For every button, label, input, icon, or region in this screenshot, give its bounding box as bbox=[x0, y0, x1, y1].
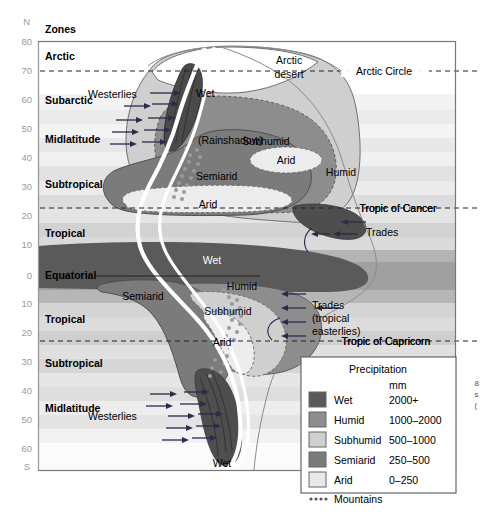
lat-tick-30: 30 bbox=[21, 181, 32, 192]
map-label-arid-south: Arid bbox=[213, 336, 232, 348]
map-label-arid-rainshadow: Arid bbox=[277, 154, 296, 166]
legend-label-subhumid: Subhumid bbox=[334, 434, 381, 446]
map-label-wet-north: Wet bbox=[196, 87, 215, 99]
map-label-rainshadow: (Rainshadow) bbox=[198, 134, 263, 146]
legend-swatch-subhumid bbox=[309, 432, 326, 447]
legend-range-humid: 1000–2000 bbox=[389, 414, 442, 426]
label-tropic-of-cancer-fg: Tropic of Cancer bbox=[359, 202, 437, 214]
axis-hemisphere-south: S bbox=[24, 461, 30, 472]
legend-swatch-humid bbox=[309, 412, 326, 427]
legend-range-subhumid: 500–1000 bbox=[389, 434, 436, 446]
legend-units: mm bbox=[389, 379, 407, 391]
lat-tick-50: 50 bbox=[21, 123, 32, 134]
wind-label-tropical-easterlies-l2: easterlies) bbox=[312, 325, 360, 337]
zone-label-arctic-n: Arctic bbox=[45, 50, 75, 62]
zone-label-tropical-n: Tropical bbox=[45, 227, 85, 239]
margin-note-line2: s bbox=[475, 389, 479, 400]
legend-swatch-mountains bbox=[309, 497, 327, 500]
wind-label-trades-north: Trades bbox=[366, 226, 398, 238]
lat-tick-40: 40 bbox=[21, 152, 32, 163]
lat-tick-80: 80 bbox=[21, 36, 32, 47]
margin-note-line1: 8 bbox=[475, 378, 479, 389]
lat-tick-20: 20 bbox=[21, 210, 32, 221]
axis-title-zones: Zones bbox=[45, 23, 76, 35]
margin-note-line3: ( bbox=[475, 400, 479, 411]
map-label-semiarid-north: Semiarid bbox=[196, 170, 238, 182]
map-label-humid-south: Humid bbox=[227, 280, 258, 292]
zone-label-tropical-s: Tropical bbox=[45, 313, 85, 325]
latitude-axis: N S 80 70 60 50 40 30 20 10 0 10 20 30 4… bbox=[21, 16, 38, 472]
zone-label-subarctic-n: Subarctic bbox=[45, 94, 93, 106]
map-label-wet-equatorial: Wet bbox=[203, 254, 222, 266]
legend-label-humid: Humid bbox=[334, 414, 365, 426]
lat-tick-40s: 40 bbox=[21, 385, 32, 396]
legend-label-mountains: Mountains bbox=[334, 493, 382, 505]
legend-label-arid: Arid bbox=[334, 474, 353, 486]
legend-swatch-arid bbox=[309, 472, 326, 487]
lat-tick-30s: 30 bbox=[21, 356, 32, 367]
legend-range-semiarid: 250–500 bbox=[389, 454, 430, 466]
lat-tick-0: 0 bbox=[27, 270, 32, 281]
lat-tick-60: 60 bbox=[21, 94, 32, 105]
zone-label-equatorial: Equatorial bbox=[45, 269, 96, 281]
lat-tick-50s: 50 bbox=[21, 414, 32, 425]
lat-tick-10: 10 bbox=[21, 239, 32, 250]
legend-box: Precipitation mm Wet 2000+ Humid 1000–20… bbox=[301, 357, 456, 505]
map-label-subhumid-south: Subhumid bbox=[204, 305, 251, 317]
map-label-arid-belt-north: Arid bbox=[199, 198, 218, 210]
map-label-humid-north: Humid bbox=[326, 166, 357, 178]
precipitation-zones-diagram: N S 80 70 60 50 40 30 20 10 0 10 20 30 4… bbox=[0, 0, 481, 529]
zone-label-subtropical-n: Subtropical bbox=[45, 178, 103, 190]
axis-hemisphere-north: N bbox=[23, 16, 30, 27]
legend-item-mountains[interactable]: Mountains bbox=[309, 493, 382, 505]
zone-label-subtropical-s: Subtropical bbox=[45, 357, 103, 369]
legend-swatch-wet bbox=[309, 392, 326, 407]
legend-swatch-semiarid bbox=[309, 452, 326, 467]
lat-tick-20s: 20 bbox=[21, 327, 32, 338]
zone-label-midlatitude-n: Midlatitude bbox=[45, 133, 101, 145]
lat-tick-10s: 10 bbox=[21, 298, 32, 309]
legend-range-arid: 0–250 bbox=[389, 474, 418, 486]
legend-label-wet: Wet bbox=[334, 394, 353, 406]
wind-label-trades-south: Trades bbox=[312, 299, 344, 311]
lat-tick-60s: 60 bbox=[21, 443, 32, 454]
margin-note: 8 s ( bbox=[475, 378, 479, 411]
lat-tick-70: 70 bbox=[21, 65, 32, 76]
label-arctic-circle-fg: Arctic Circle bbox=[356, 65, 412, 77]
legend-range-wet: 2000+ bbox=[389, 394, 419, 406]
wind-label-westerlies-south: Westerlies bbox=[88, 410, 137, 422]
map-label-arctic: Arctic bbox=[276, 54, 302, 66]
legend-title: Precipitation bbox=[349, 363, 407, 375]
map-label-wet-south: Wet bbox=[213, 457, 232, 469]
wind-label-westerlies-north: Westerlies bbox=[88, 88, 137, 100]
legend-label-semiarid: Semiarid bbox=[334, 454, 376, 466]
figure-root: N S 80 70 60 50 40 30 20 10 0 10 20 30 4… bbox=[0, 0, 481, 529]
map-label-semiarid-south: Semiarid bbox=[122, 290, 164, 302]
map-label-arctic-desert: desert bbox=[274, 68, 303, 80]
wind-label-tropical-easterlies-l1: (tropical bbox=[312, 312, 349, 324]
